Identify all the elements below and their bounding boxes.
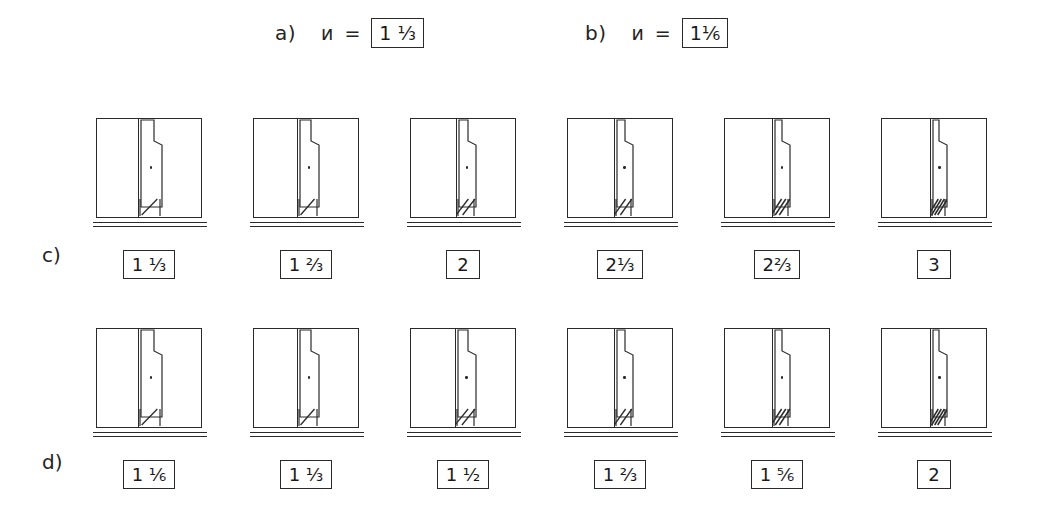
drawing-ground-line (878, 222, 992, 223)
prompt-b-answer-box[interactable]: 1⅙ (682, 18, 729, 48)
drawing-leaf-shape (299, 119, 320, 209)
drawing-ground-line-secondary (93, 436, 207, 437)
figure-cell: 1 ⅔ (247, 118, 365, 222)
caption-value-box[interactable]: 1 ⅙ (123, 460, 176, 489)
figure-caption: 1 ⅓ (247, 460, 365, 489)
drawing-ground-line-secondary (721, 226, 835, 227)
drawing-hatch-mark (139, 198, 162, 218)
drawing-ground-line (721, 432, 835, 433)
caption-value: 1 ⅔ (603, 466, 638, 484)
drawing-ground-line (721, 222, 835, 223)
figure-caption: 2⅓ (561, 250, 679, 279)
figure-caption: 1 ⅙ (90, 460, 208, 489)
drawing-ground-line-secondary (564, 436, 678, 437)
figure-cell: 1 ⅓ (90, 118, 208, 222)
caption-value-box[interactable]: 1 ⅔ (594, 460, 647, 489)
prompt-a-variable: и (307, 22, 333, 44)
drawing-hatch-mark (298, 198, 319, 218)
prompt-b: b) и = 1⅙ (585, 18, 728, 48)
technical-drawing (724, 118, 830, 222)
technical-drawing (253, 118, 359, 222)
caption-value: 2⅔ (763, 256, 792, 274)
caption-value: 1 ⅔ (289, 256, 324, 274)
row-label-d: d) (42, 450, 63, 474)
prompt-a-equals: = (344, 22, 360, 44)
prompt-a-tag: a) (275, 21, 296, 45)
drawing-center-dot (623, 376, 626, 379)
figure-caption: 1 ⅓ (90, 250, 208, 279)
drawing-ground-line-secondary (250, 226, 364, 227)
figure-caption: 1 ⅔ (561, 460, 679, 489)
drawing-center-dot (308, 166, 311, 169)
drawing-ground-line (564, 432, 678, 433)
technical-drawing (96, 328, 202, 432)
prompt-a-answer-box[interactable]: 1 ⅓ (371, 18, 424, 48)
drawing-ground-line-secondary (93, 226, 207, 227)
caption-value: 3 (928, 256, 939, 274)
prompt-b-answer-value: 1⅙ (690, 24, 721, 43)
drawing-hatch-mark (931, 408, 947, 428)
drawing-ground-line (93, 222, 207, 223)
drawing-center-dot (938, 376, 941, 379)
technical-drawing (253, 328, 359, 432)
drawing-leaf-shape (774, 119, 791, 209)
drawing-ground-line (93, 432, 207, 433)
technical-drawing (724, 328, 830, 432)
drawing-ground-line-secondary (407, 226, 521, 227)
figure-cell: 1 ⅚ (718, 328, 836, 432)
drawing-ground-line (407, 432, 521, 433)
drawing-center-dot (465, 376, 468, 379)
caption-value-box[interactable]: 2 (917, 460, 951, 489)
figure-cell: 1 ⅔ (561, 328, 679, 432)
figure-cell: 1 ½ (404, 328, 522, 432)
drawing-center-dot (781, 166, 784, 169)
figure-cell: 2⅓ (561, 118, 679, 222)
drawing-leaf-shape (458, 119, 477, 209)
prompt-b-variable: и (618, 22, 644, 44)
figure-cell: 2 (404, 118, 522, 222)
technical-drawing (96, 118, 202, 222)
technical-drawing (567, 328, 673, 432)
technical-drawing (567, 118, 673, 222)
caption-value: 2⅓ (606, 256, 635, 274)
figure-cell: 1 ⅙ (90, 328, 208, 432)
caption-value-box[interactable]: 2 (446, 250, 480, 279)
caption-value: 1 ½ (446, 466, 481, 484)
drawing-center-dot (938, 166, 941, 169)
figure-caption: 1 ⅚ (718, 460, 836, 489)
drawing-hatch-mark (931, 198, 947, 218)
drawing-leaf-shape (140, 329, 163, 419)
drawing-leaf-shape (616, 329, 634, 419)
drawing-hatch-mark (456, 408, 476, 428)
drawing-ground-line-secondary (721, 436, 835, 437)
drawing-leaf-shape (299, 329, 320, 419)
technical-drawing (410, 118, 516, 222)
caption-value-box[interactable]: 1 ⅓ (280, 460, 333, 489)
drawing-center-dot (150, 376, 153, 379)
drawing-leaf-shape (932, 119, 948, 209)
drawing-ground-line (250, 432, 364, 433)
caption-value-box[interactable]: 3 (917, 250, 951, 279)
drawing-center-dot (466, 166, 469, 169)
drawing-ground-line (250, 222, 364, 223)
caption-value-box[interactable]: 2⅔ (754, 250, 801, 279)
figure-caption: 3 (875, 250, 993, 279)
drawing-center-dot (150, 166, 153, 169)
technical-drawing (410, 328, 516, 432)
caption-value: 1 ⅚ (760, 466, 795, 484)
drawing-ground-line-secondary (564, 226, 678, 227)
drawing-leaf-shape (932, 329, 948, 419)
figure-cell: 1 ⅓ (247, 328, 365, 432)
drawing-ground-line (878, 432, 992, 433)
caption-value-box[interactable]: 1 ⅓ (123, 250, 176, 279)
drawing-leaf-shape (140, 119, 163, 209)
drawing-center-dot (308, 376, 311, 379)
figure-caption: 2 (875, 460, 993, 489)
caption-value-box[interactable]: 1 ⅔ (280, 250, 333, 279)
caption-value-box[interactable]: 1 ½ (437, 460, 490, 489)
drawing-ground-line-secondary (878, 226, 992, 227)
drawing-hatch-mark (457, 198, 476, 218)
drawing-center-dot (623, 166, 626, 169)
caption-value-box[interactable]: 1 ⅚ (751, 460, 804, 489)
caption-value-box[interactable]: 2⅓ (597, 250, 644, 279)
